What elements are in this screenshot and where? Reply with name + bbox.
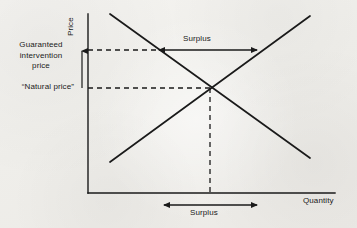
x-axis-label-quantity: Quantity xyxy=(303,196,334,206)
guaranteed-intervention-price-label: Guaranteed intervention price xyxy=(10,40,72,72)
natural-price-label: “Natural price” xyxy=(8,82,74,92)
y-axis-label-price: Price xyxy=(66,17,76,36)
surplus-bottom-label: Surplus xyxy=(190,208,218,218)
surplus-top-label: Surplus xyxy=(183,34,211,44)
supply-demand-diagram: Price Quantity Guaranteed intervention p… xyxy=(0,0,357,228)
chart-canvas xyxy=(0,0,357,228)
axis-lines xyxy=(88,14,335,193)
